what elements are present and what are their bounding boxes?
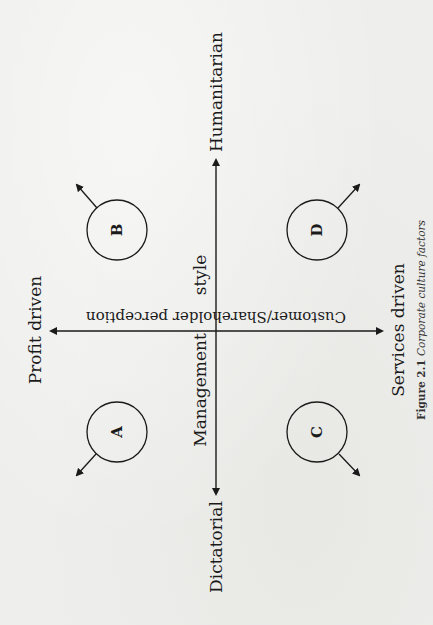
axis-right-label: Services driven [390,263,407,397]
quadrant-c-label: C [310,426,325,438]
quadrant-b-circle [77,185,147,260]
axis-left-label: Profit driven [27,276,44,384]
quadrant-c-circle [287,402,359,475]
quadrant-a-circle [77,402,147,475]
quadrant-d-label: D [310,223,325,236]
quadrant-b-label: B [110,224,125,237]
figure-number: Figure 2.1 [415,359,427,420]
axis-vertical-name-part2: style [192,255,209,296]
scanned-page: B D A C Humanitarian Dictatorial Managem… [0,0,433,625]
figure-title: Corporate culture factors [415,220,427,356]
axis-top-label: Humanitarian [208,32,225,152]
axis-horizontal-name: Customer/Shareholder perception [86,309,346,324]
figure-caption: Figure 2.1 Corporate culture factors [416,220,427,420]
quadrant-a-label: A [110,426,125,438]
axis-bottom-label: Dictatorial [208,501,225,593]
axis-vertical-name-part1: Management [192,333,209,447]
